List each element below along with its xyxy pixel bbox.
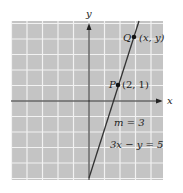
point-q xyxy=(132,35,137,40)
point-q-coords: (x, y) xyxy=(139,32,165,43)
y-axis-label: y xyxy=(85,8,92,19)
point-p-name: P xyxy=(108,79,116,90)
equation-label: 3x − y = 5 xyxy=(110,139,164,150)
x-axis-label: x xyxy=(167,95,173,106)
point-q-name: Q xyxy=(123,32,131,43)
point-p-coords: (2, 1) xyxy=(122,79,149,90)
point-p xyxy=(116,83,121,88)
coordinate-graph: x y P (2, 1) Q (x, y) m = 3 3x − y = 5 xyxy=(0,0,183,193)
slope-label: m = 3 xyxy=(114,117,145,128)
